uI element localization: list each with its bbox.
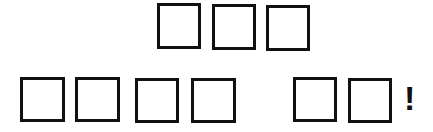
exclamation-mark: ! xyxy=(404,81,415,115)
letter-box[interactable] xyxy=(293,77,337,122)
letter-box[interactable] xyxy=(20,77,65,122)
letter-box[interactable] xyxy=(266,5,310,51)
letter-box[interactable] xyxy=(135,78,179,123)
letter-box[interactable] xyxy=(157,3,201,49)
letter-box[interactable] xyxy=(212,4,256,50)
letter-box[interactable] xyxy=(75,77,120,122)
letter-box[interactable] xyxy=(348,78,392,123)
letter-box[interactable] xyxy=(191,78,236,123)
